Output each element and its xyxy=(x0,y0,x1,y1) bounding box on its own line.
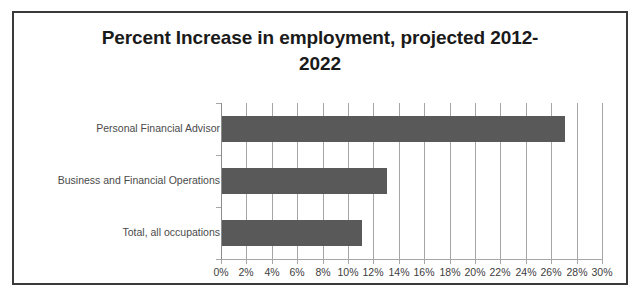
x-axis-tick-mark xyxy=(323,259,324,264)
gridline-30pct xyxy=(602,103,603,259)
x-axis-tick-mark xyxy=(399,259,400,264)
category-label-total-all-occupations: Total, all occupations xyxy=(24,227,220,238)
x-axis-tick-mark xyxy=(475,259,476,264)
category-axis-tick-mark xyxy=(216,207,221,208)
gridline-28pct xyxy=(577,103,578,259)
x-axis-tick-mark xyxy=(348,259,349,264)
chart-frame: Percent Increase in employment, projecte… xyxy=(12,11,628,285)
x-axis-tick-mark xyxy=(373,259,374,264)
x-axis-tick-mark xyxy=(297,259,298,264)
category-axis-tick-mark xyxy=(216,155,221,156)
bar-personal-financial-advisor xyxy=(222,116,565,142)
category-axis-tick-mark xyxy=(216,259,221,260)
x-axis-tick-mark xyxy=(526,259,527,264)
plot-wrapper: Personal Financial AdvisorBusiness and F… xyxy=(14,13,630,287)
category-label-personal-financial-advisor: Personal Financial Advisor xyxy=(24,123,220,134)
bar-business-and-financial-operations xyxy=(222,168,387,194)
category-axis-tick-mark xyxy=(216,103,221,104)
category-axis-labels: Personal Financial AdvisorBusiness and F… xyxy=(24,103,220,259)
x-axis-tick-labels: 0%2%4%6%8%10%12%14%16%18%20%22%24%26%28%… xyxy=(221,266,611,282)
x-axis-tick-mark xyxy=(424,259,425,264)
x-axis-tick-mark xyxy=(221,259,222,264)
plot-area xyxy=(221,103,602,259)
x-axis-tick-mark xyxy=(450,259,451,264)
x-axis-tick-mark xyxy=(246,259,247,264)
bar-total-all-occupations xyxy=(222,220,362,246)
x-axis-tick-label: 30% xyxy=(582,266,622,279)
x-axis-tick-mark xyxy=(577,259,578,264)
x-axis-tick-mark xyxy=(602,259,603,264)
category-label-business-and-financial-operations: Business and Financial Operations xyxy=(24,175,220,186)
x-axis-tick-mark xyxy=(500,259,501,264)
x-axis-tick-mark xyxy=(551,259,552,264)
x-axis-baseline xyxy=(221,259,603,260)
x-axis-tick-mark xyxy=(272,259,273,264)
